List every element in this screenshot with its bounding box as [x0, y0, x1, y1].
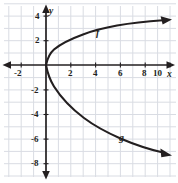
x-tick-label-8: 8 [142, 69, 147, 78]
y-tick-label--4: -4 [31, 110, 39, 119]
coordinate-plane [0, 0, 178, 183]
curve-g [46, 65, 172, 157]
graph-figure: -2 2 4 6 8 10 4 2 -2 -4 -6 -8 x y f g [0, 0, 178, 183]
y-tick-label-2: 2 [35, 36, 40, 45]
x-tick-label-2: 2 [68, 69, 73, 78]
y-axis [42, 5, 50, 180]
x-tick-label-4: 4 [93, 69, 98, 78]
curve-label-g: g [119, 133, 124, 143]
y-axis-bottom-arrowhead [42, 171, 50, 180]
x-axis-right-arrowhead [167, 61, 176, 69]
x-tick-label-6: 6 [118, 69, 123, 78]
x-axis [3, 61, 176, 69]
x-tick-label-10: 10 [153, 69, 162, 78]
curve-label-f: f [96, 28, 99, 38]
y-tick-label-4: 4 [35, 12, 40, 21]
y-tick-label--8: -8 [31, 159, 39, 168]
x-axis-left-arrowhead [3, 61, 12, 69]
y-tick-label--6: -6 [31, 135, 39, 144]
y-axis-name: y [49, 7, 53, 17]
x-tick-label--2: -2 [14, 69, 22, 78]
x-axis-name: x [167, 70, 172, 80]
y-tick-label--2: -2 [31, 86, 39, 95]
